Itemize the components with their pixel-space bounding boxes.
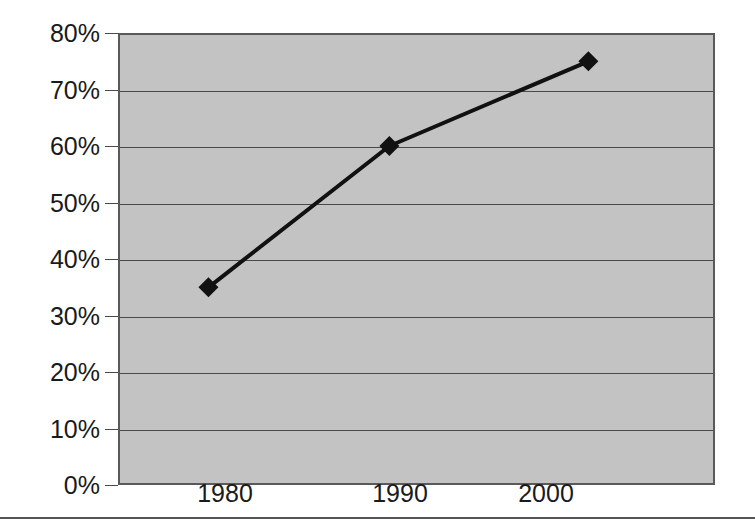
line-chart-figure: 80%70%60%50%40%30%20%10%0% 198019902000 <box>0 0 755 526</box>
x-axis-labels: 198019902000 <box>0 0 755 526</box>
x-axis-tick-label: 1980 <box>197 481 253 506</box>
bottom-separator-rule <box>0 517 755 519</box>
x-axis-tick-label: 2000 <box>518 481 574 506</box>
x-axis-tick-label: 1990 <box>372 481 428 506</box>
